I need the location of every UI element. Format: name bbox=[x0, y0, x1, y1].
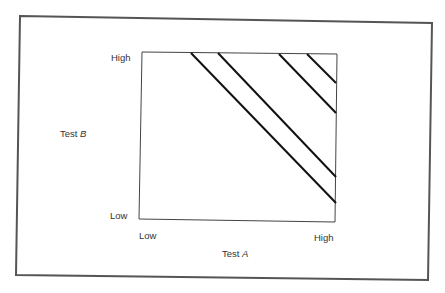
x-axis-title-var: A bbox=[242, 248, 248, 259]
y-axis-title-text: Test bbox=[60, 128, 77, 139]
y-axis-low-label: Low bbox=[110, 210, 127, 221]
plot-box bbox=[139, 52, 337, 222]
x-axis-low-label: Low bbox=[139, 230, 156, 241]
diagonal-line-2 bbox=[218, 53, 336, 177]
outer-frame bbox=[16, 16, 432, 280]
x-axis-title: Test A bbox=[222, 248, 248, 259]
y-axis-high-label: High bbox=[111, 52, 131, 63]
x-axis-title-text: Test bbox=[222, 248, 239, 259]
diagonal-line-4 bbox=[307, 54, 336, 83]
y-axis-title-var: B bbox=[80, 128, 86, 139]
diagonal-lines bbox=[191, 53, 336, 203]
y-axis-title: Test B bbox=[60, 128, 86, 139]
diagonal-line-3 bbox=[279, 54, 336, 113]
x-axis-high-label: High bbox=[314, 232, 334, 243]
diagonal-line-1 bbox=[191, 53, 336, 203]
